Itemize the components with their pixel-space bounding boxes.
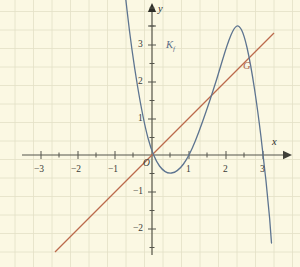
x-tick-label-1: 1 [186, 165, 191, 175]
curve-label-kf: Kf [166, 40, 175, 53]
y-tick-label-3: 3 [138, 40, 143, 50]
x-tick-label--1: −1 [108, 165, 118, 175]
y-tick-label-1: 1 [138, 114, 143, 124]
x-tick-label-3: 3 [260, 165, 265, 175]
plot-background [0, 0, 300, 267]
plot-canvas [0, 0, 300, 267]
y-tick-label--2: −2 [133, 224, 143, 234]
y-axis-label: y [158, 4, 163, 15]
graph-figure: −3 −2 −1 1 2 3 3 2 1 −1 −2 O x y Kf G [0, 0, 300, 267]
curve-label-kf-main: K [166, 39, 173, 50]
x-tick-label--3: −3 [34, 165, 44, 175]
curve-label-g: G [243, 61, 251, 72]
x-tick-label-2: 2 [223, 165, 228, 175]
x-axis-label: x [272, 137, 277, 148]
x-tick-label--2: −2 [71, 165, 81, 175]
y-tick-label-2: 2 [138, 77, 143, 87]
origin-label: O [143, 159, 150, 169]
y-tick-label--1: −1 [133, 187, 143, 197]
curve-label-kf-sub: f [173, 45, 175, 53]
